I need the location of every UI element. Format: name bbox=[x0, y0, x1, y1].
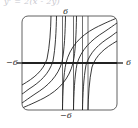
axis-label-y-max: 6 bbox=[63, 8, 68, 16]
implicit-curve-family-figure: y' = 2(x - 2y) bbox=[0, 0, 138, 128]
axis-label-x-min: −6 bbox=[6, 59, 18, 67]
axis-label-x-max: 6 bbox=[126, 59, 131, 67]
plot-canvas bbox=[0, 0, 138, 128]
axis-label-y-min: −6 bbox=[60, 112, 72, 120]
